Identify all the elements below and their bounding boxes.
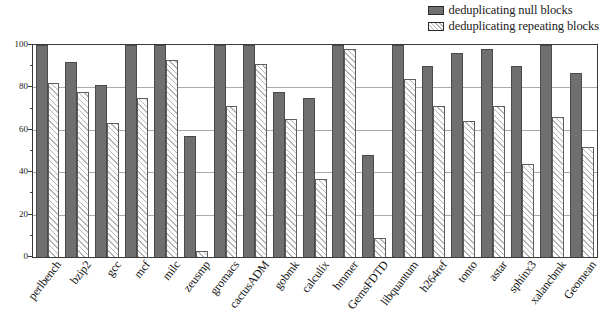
x-tick-label: astar	[485, 258, 510, 284]
bar-repeating-blocks	[374, 238, 386, 257]
bar-group	[63, 45, 93, 257]
bar-repeating-blocks	[196, 251, 208, 257]
bar-null-blocks	[511, 66, 523, 257]
y-tick-mark-60	[28, 129, 32, 130]
bar-repeating-blocks	[344, 49, 356, 257]
bar-repeating-blocks	[433, 106, 445, 257]
y-minor-tick-50	[30, 150, 32, 151]
bar-null-blocks	[214, 45, 226, 257]
bar-null-blocks	[243, 45, 255, 257]
bar-group	[508, 45, 538, 257]
legend-swatch-icon-null-blocks	[428, 6, 444, 15]
bar-repeating-blocks	[107, 123, 119, 257]
bar-null-blocks	[332, 45, 344, 257]
x-tick-label: gobmk	[271, 258, 303, 293]
chart-legend: deduplicating null blocks deduplicating …	[428, 4, 599, 33]
x-tick-label: h264ref	[417, 258, 451, 296]
chart-x-axis-labels: perlbenchbzip2gccmcfmilczeusmpgromacscac…	[32, 258, 598, 336]
bar-null-blocks	[362, 155, 374, 257]
y-tick-label-80: 80	[2, 81, 28, 91]
bar-repeating-blocks	[77, 92, 89, 257]
bar-group	[33, 45, 63, 257]
bar-null-blocks	[125, 45, 137, 257]
chart-plot-area	[32, 44, 598, 258]
bar-repeating-blocks	[522, 164, 534, 257]
chart-bars-layer	[33, 45, 597, 257]
legend-swatch-icon-repeating-blocks	[428, 22, 444, 31]
bar-null-blocks	[65, 62, 77, 257]
bar-null-blocks	[303, 98, 315, 257]
bar-null-blocks	[540, 45, 552, 257]
bar-null-blocks	[422, 66, 434, 257]
y-minor-tick-70	[30, 108, 32, 109]
bar-group	[449, 45, 479, 257]
x-tick-label: gcc	[103, 258, 125, 280]
x-tick-label: perlbench	[25, 258, 65, 303]
bar-group	[567, 45, 597, 257]
bar-repeating-blocks	[285, 119, 297, 257]
y-tick-label-40: 40	[2, 166, 28, 176]
bar-repeating-blocks	[463, 121, 475, 257]
y-tick-label-100: 100	[2, 39, 28, 49]
legend-label-repeating-blocks: deduplicating repeating blocks	[449, 20, 599, 33]
bar-repeating-blocks	[582, 147, 594, 257]
bar-group	[478, 45, 508, 257]
x-tick-label: tonto	[454, 258, 480, 286]
bar-repeating-blocks	[166, 60, 178, 257]
bar-group	[360, 45, 390, 257]
bar-repeating-blocks	[404, 79, 416, 257]
legend-label-null-blocks: deduplicating null blocks	[449, 4, 573, 17]
bar-group	[211, 45, 241, 257]
bar-repeating-blocks	[137, 98, 149, 257]
bar-null-blocks	[273, 92, 285, 257]
bar-null-blocks	[451, 53, 463, 257]
bar-repeating-blocks	[493, 106, 505, 257]
legend-item-repeating-blocks: deduplicating repeating blocks	[428, 20, 599, 33]
y-tick-mark-100	[28, 44, 32, 45]
bar-group	[538, 45, 568, 257]
y-tick-label-60: 60	[2, 124, 28, 134]
bar-repeating-blocks	[48, 83, 60, 257]
bar-repeating-blocks	[552, 117, 564, 257]
bar-group	[152, 45, 182, 257]
bar-group	[181, 45, 211, 257]
bar-group	[330, 45, 360, 257]
y-minor-tick-90	[30, 65, 32, 66]
bar-null-blocks	[95, 85, 107, 257]
bar-group	[389, 45, 419, 257]
x-tick-label: calculix	[298, 258, 332, 296]
bar-group	[241, 45, 271, 257]
x-tick-label: mcf	[131, 258, 154, 281]
y-tick-mark-80	[28, 86, 32, 87]
y-tick-label-0: 0	[2, 251, 28, 261]
bar-null-blocks	[36, 45, 48, 257]
y-minor-tick-30	[30, 192, 32, 193]
bar-repeating-blocks	[315, 179, 327, 257]
bar-group	[419, 45, 449, 257]
y-tick-mark-40	[28, 171, 32, 172]
bar-null-blocks	[481, 49, 493, 257]
bar-null-blocks	[570, 73, 582, 257]
bar-null-blocks	[154, 45, 166, 257]
y-tick-mark-0	[28, 256, 32, 257]
legend-item-null-blocks: deduplicating null blocks	[428, 4, 573, 17]
bar-repeating-blocks	[226, 106, 238, 257]
bar-repeating-blocks	[255, 64, 267, 257]
bar-null-blocks	[392, 45, 404, 257]
bar-group	[92, 45, 122, 257]
y-tick-mark-20	[28, 214, 32, 215]
x-tick-label: bzip2	[67, 258, 95, 287]
bar-group	[270, 45, 300, 257]
bar-null-blocks	[184, 136, 196, 257]
y-minor-tick-10	[30, 235, 32, 236]
bar-group	[300, 45, 330, 257]
bar-group	[122, 45, 152, 257]
x-tick-label: milc	[159, 258, 183, 283]
y-tick-label-20: 20	[2, 209, 28, 219]
